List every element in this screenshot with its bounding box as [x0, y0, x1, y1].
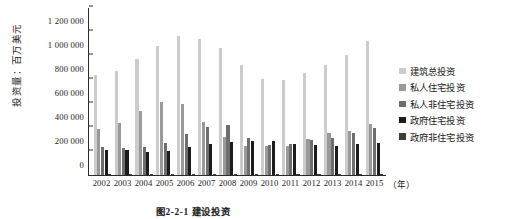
bar: [202, 122, 205, 175]
legend-item: 政府非住宅投资: [399, 130, 474, 144]
legend-label: 政府非住宅投资: [410, 130, 474, 144]
bar: [234, 174, 237, 175]
bar: [192, 174, 195, 175]
bar: [317, 174, 320, 175]
figure-construction-investment: 投资量：百万美元 0200 000400 000600 000800 0001 …: [0, 0, 505, 219]
bar: [171, 174, 174, 175]
x-axis-tick-label: 2012: [301, 178, 322, 188]
bar: [356, 144, 359, 175]
bar: [188, 147, 191, 175]
bar-group: [113, 8, 134, 175]
bar: [135, 59, 138, 175]
x-axis-tick-label: 2015: [364, 178, 385, 188]
bar: [251, 141, 254, 175]
x-axis-tick-label: 2010: [259, 178, 280, 188]
bar: [282, 80, 285, 175]
y-axis-tick-label: 200 000: [4, 136, 89, 146]
bar-group: [259, 8, 280, 175]
y-axis-tick-label: 0: [4, 160, 89, 170]
bar: [296, 174, 299, 175]
legend-item: 私人住宅投资: [399, 80, 474, 94]
y-axis-tick-label: 400 000: [4, 112, 89, 122]
bar: [314, 145, 317, 175]
bar: [255, 174, 258, 175]
bar: [206, 127, 209, 175]
bar: [377, 143, 380, 175]
x-axis-tick-label: 2008: [217, 178, 238, 188]
bar: [219, 48, 222, 175]
bar: [261, 79, 264, 175]
x-axis-tick-label: 2014: [343, 178, 364, 188]
bar: [247, 138, 250, 175]
plot-area: 0200 000400 000600 000800 0001 000 0001 …: [88, 8, 386, 176]
legend-item: 建筑总投资: [399, 64, 474, 78]
bar: [146, 152, 149, 175]
bar: [359, 174, 362, 175]
bar: [108, 174, 111, 175]
figure-caption: 图2-2-1 建设投资: [0, 204, 386, 218]
bar: [226, 125, 229, 175]
x-axis-tick-label: 2011: [280, 178, 301, 188]
legend-swatch-icon: [399, 133, 406, 140]
bar: [213, 174, 216, 175]
bar-group: [364, 8, 385, 175]
bar: [122, 148, 125, 175]
bar: [306, 139, 309, 175]
bar: [105, 150, 108, 175]
bar-group: [218, 8, 239, 175]
x-axis-tick-label: 2002: [91, 178, 112, 188]
legend-swatch-icon: [399, 117, 406, 124]
bar: [150, 174, 153, 175]
bar-groups: [89, 8, 386, 175]
y-axis-tick-label: 800 000: [4, 64, 89, 74]
x-axis-unit: （年）: [388, 178, 415, 190]
bar: [348, 131, 351, 175]
bar: [276, 174, 279, 175]
bar: [167, 151, 170, 175]
bar: [181, 104, 184, 175]
bar-group: [197, 8, 218, 175]
bar: [129, 174, 132, 175]
bar: [115, 71, 118, 175]
bar-group: [134, 8, 155, 175]
bar: [366, 41, 369, 175]
bar: [94, 75, 97, 175]
bar: [244, 146, 247, 175]
bar-group: [238, 8, 259, 175]
bar: [223, 137, 226, 175]
legend-item: 私人非住宅投资: [399, 97, 474, 111]
bar-group: [322, 8, 343, 175]
bar: [209, 144, 212, 175]
bar: [380, 174, 383, 175]
legend-label: 私人住宅投资: [410, 80, 465, 94]
bar: [286, 146, 289, 175]
bar: [156, 46, 159, 175]
y-axis-tick-label: 600 000: [4, 88, 89, 98]
bar: [240, 65, 243, 175]
bar: [101, 147, 104, 175]
bar: [272, 141, 275, 175]
bar: [265, 146, 268, 175]
bar: [352, 133, 355, 175]
bar: [345, 55, 348, 175]
y-axis-tick-label: 1 000 000: [4, 40, 89, 50]
legend-label: 私人非住宅投资: [410, 97, 474, 111]
bar: [373, 128, 376, 175]
x-axis-tick-label: 2007: [196, 178, 217, 188]
bar-group: [176, 8, 197, 175]
x-axis-tick-label: 2013: [322, 178, 343, 188]
bar: [327, 133, 330, 175]
bar-group: [301, 8, 322, 175]
bar-group: [92, 8, 113, 175]
bar: [198, 39, 201, 175]
bar: [164, 143, 167, 175]
bar: [185, 134, 188, 175]
bar: [310, 140, 313, 175]
bar: [160, 102, 163, 175]
bar-group: [343, 8, 364, 175]
bar-group: [280, 8, 301, 175]
bar: [369, 124, 372, 175]
bar: [139, 111, 142, 175]
legend: 建筑总投资私人住宅投资私人非住宅投资政府住宅投资政府非住宅投资: [399, 64, 474, 144]
bar: [177, 36, 180, 175]
